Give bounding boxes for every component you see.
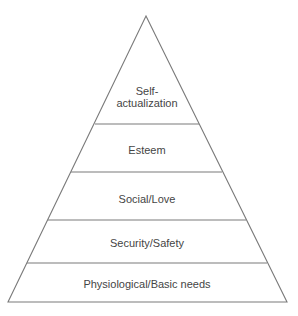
level-security-safety: Security/Safety xyxy=(110,237,184,249)
level-self-actualization-line2: actualization xyxy=(116,97,177,109)
level-esteem: Esteem xyxy=(128,144,165,156)
level-social-love: Social/Love xyxy=(119,193,176,205)
hierarchy-pyramid: Self- actualization Esteem Social/Love S… xyxy=(0,0,298,316)
level-self-actualization-line1: Self- xyxy=(136,85,159,97)
pyramid-outline xyxy=(8,16,287,302)
level-physiological: Physiological/Basic needs xyxy=(83,278,211,290)
